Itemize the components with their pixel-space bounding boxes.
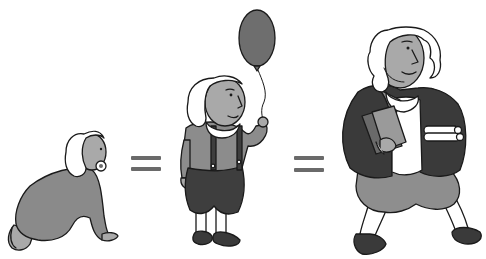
equals-sign-2 [294, 156, 324, 172]
adult-figure [343, 27, 482, 254]
balloon-icon [239, 10, 275, 66]
child-figure [181, 10, 275, 246]
baby-figure [8, 131, 118, 250]
illustration-canvas [0, 0, 486, 259]
equals-sign-1 [131, 156, 161, 171]
scrolls-icon [424, 126, 464, 141]
